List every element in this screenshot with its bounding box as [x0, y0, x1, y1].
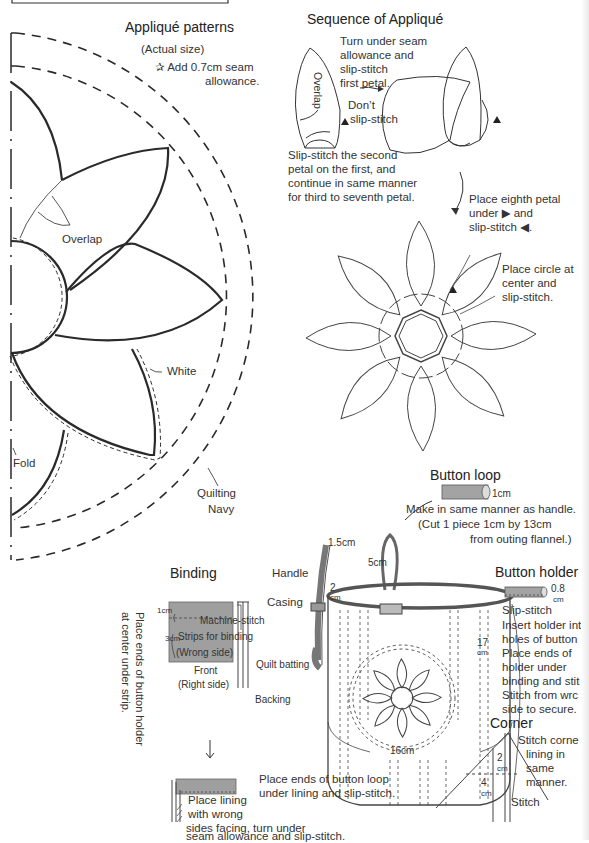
casing-unit: cm — [330, 591, 341, 605]
page-edge-shadow — [581, 0, 589, 840]
corner-stitch-label: Stitch — [511, 795, 540, 809]
bag-illustration — [311, 535, 520, 805]
seam-note: ✰ Add 0.7cm seam — [155, 60, 254, 74]
label-front: Front — [194, 664, 217, 678]
holder-text-3: Place ends of — [502, 646, 572, 660]
loop-note-1: Place ends of button loop — [259, 772, 389, 786]
handle-width: 1.5cm — [328, 536, 355, 550]
bag-width: 16cm — [390, 744, 414, 758]
step4-line3: slip-stitch. — [502, 290, 553, 304]
corner-title: Corner — [490, 716, 533, 730]
triangle-marker-icon — [493, 116, 501, 123]
step1-line4: first petal. — [340, 76, 390, 90]
step4-line2: center and — [502, 276, 556, 290]
lining-note-2: with wrong — [188, 807, 243, 821]
step1-line3: slip-stitch — [340, 62, 388, 76]
bag-height-unit: cm — [477, 646, 488, 660]
step3-line2: under ▶ and — [469, 206, 533, 220]
step4-line1: Place circle at — [502, 262, 574, 276]
loop-length: 5cm — [368, 556, 387, 570]
pattern-subtitle: (Actual size) — [141, 42, 204, 56]
triangle-right-icon: ▶ — [502, 207, 511, 219]
lining-note-4: seam allowance and slip-stitch. — [186, 829, 345, 843]
label-handle: Handle — [272, 566, 308, 580]
flower-petals — [306, 221, 536, 451]
step1-line1: Turn under seam — [340, 34, 427, 48]
corner-text-1: Stitch corne — [518, 733, 579, 747]
label-quilting: Quilting — [197, 486, 236, 500]
sequence-petal-2 — [382, 47, 488, 153]
sequence-title: Sequence of Appliqué — [307, 12, 443, 26]
dont-line2: slip-stitch — [350, 112, 398, 126]
label-navy: Navy — [208, 502, 234, 516]
loop-text-2: (Cut 1 piece 1cm by 13cm — [418, 517, 552, 531]
label-backing: Backing — [255, 693, 291, 707]
holder-text-1: Insert holder int — [502, 618, 581, 632]
corner-dim-2-unit: cm — [497, 762, 508, 776]
holder-note-line1: Place ends of button holder — [133, 612, 147, 746]
label-fold: Fold — [13, 456, 35, 470]
holder-text-5: binding and stit — [502, 674, 579, 688]
applique-pattern — [10, 33, 253, 560]
pattern-title: Appliqué patterns — [125, 20, 234, 34]
step3-line1: Place eighth petal — [469, 192, 560, 206]
binding-dim-1: 1cm — [157, 604, 172, 618]
button-holder-strip — [505, 587, 547, 597]
holder-text-6: Stitch from wrc — [502, 688, 578, 702]
holder-text-2: holes of button — [502, 632, 577, 646]
petal-overlap-label: Overlap — [311, 72, 325, 109]
binding-title: Binding — [170, 566, 217, 580]
holder-unit: cm — [553, 593, 564, 607]
corner-text-4: manner. — [526, 775, 568, 789]
corner-text-2: lining in — [526, 747, 565, 761]
step3-line3: slip-stitch ◀. — [469, 220, 532, 234]
holder-note-line2: at center under strip. — [119, 612, 133, 713]
button-loop-strip — [442, 485, 490, 499]
loop-text-1: Make in same manner as handle. — [406, 502, 576, 516]
button-loop-title: Button loop — [430, 468, 501, 482]
arrow-step3-icon — [455, 172, 463, 212]
label-quilt-batting: Quilt batting — [256, 658, 309, 672]
star-icon: ✰ — [155, 61, 165, 73]
triangle-left-icon: ◀ — [520, 221, 529, 233]
dont-line1: Don’t — [348, 98, 375, 112]
holder-text-4: holder under — [502, 660, 567, 674]
step2-line2: petal on the first, and — [288, 162, 395, 176]
holder-text-7: side to secure. — [502, 702, 577, 716]
label-wrong-side: (Wrong side) — [176, 646, 233, 660]
step2-line1: Slip-stitch the second — [288, 148, 397, 162]
lining-note-1: Place lining — [188, 793, 247, 807]
step2-line3: continue in same manner — [288, 176, 417, 190]
label-white: White — [167, 364, 196, 378]
button-loop-dim: 1cm — [492, 487, 511, 501]
header-box-edge — [12, 0, 228, 3]
step2-line4: for third to seventh petal. — [288, 190, 415, 204]
seam-note-cont: allowance. — [205, 74, 259, 88]
applique-flower-assembled — [306, 221, 536, 451]
corner-text-3: same — [526, 761, 554, 775]
button-holder-title: Button holder — [495, 565, 578, 579]
loop-text-3: from outing flannel.) — [470, 532, 572, 546]
label-casing: Casing — [267, 595, 303, 609]
holder-slip: Slip-stitch — [502, 603, 552, 617]
loop-note-2: under lining and slip-stitch. — [259, 786, 395, 800]
label-overlap: Overlap — [62, 232, 102, 246]
step1-line2: allowance and — [340, 48, 414, 62]
label-right-side: (Right side) — [178, 678, 229, 692]
triangle-marker-icon — [341, 118, 349, 125]
label-strips: Strips for binding — [178, 630, 253, 644]
arrow-down-icon — [206, 740, 214, 758]
corner-dim-4-unit: cm — [481, 787, 492, 801]
label-machine-stitch: Machine-stitch — [200, 614, 264, 628]
